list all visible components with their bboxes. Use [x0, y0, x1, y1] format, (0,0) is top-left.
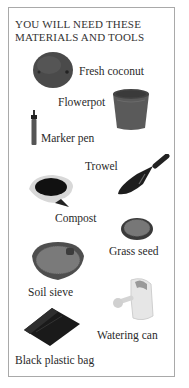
label-fresh-coconut: Fresh coconut: [79, 65, 144, 77]
label-soil-sieve: Soil sieve: [28, 286, 73, 298]
page-title: YOU WILL NEED THESE MATERIALS AND TOOLS: [15, 18, 175, 44]
coconut-icon: [31, 50, 75, 90]
grass-seed-icon: [120, 217, 154, 241]
flowerpot-icon: [111, 88, 151, 130]
label-compost: Compost: [55, 212, 97, 224]
plastic-bag-icon: [22, 306, 82, 348]
label-marker-pen: Marker pen: [41, 132, 94, 144]
marker-pen-icon: [29, 110, 39, 146]
label-watering-can: Watering can: [97, 329, 158, 341]
compost-icon: [27, 173, 77, 209]
title-line-1: YOU WILL NEED THESE: [15, 18, 175, 31]
label-trowel: Trowel: [85, 160, 118, 172]
title-line-2: MATERIALS AND TOOLS: [15, 31, 175, 44]
soil-sieve-icon: [28, 240, 88, 284]
label-black-plastic-bag: Black plastic bag: [15, 354, 94, 366]
watering-can-icon: [113, 276, 157, 324]
label-flowerpot: Flowerpot: [58, 96, 105, 108]
trowel-icon: [115, 154, 171, 196]
label-grass-seed: Grass seed: [109, 245, 159, 257]
